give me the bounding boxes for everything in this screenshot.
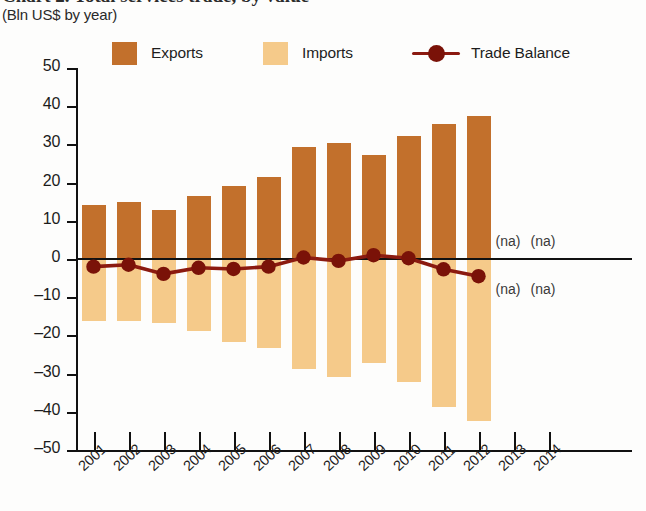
y-axis-tick-label: 10 — [12, 210, 60, 228]
bar-exports — [467, 116, 491, 259]
bar-exports — [397, 136, 421, 259]
bar-exports — [152, 210, 176, 259]
y-axis-tick-label: –20 — [12, 324, 60, 342]
zero-reference-line — [76, 258, 632, 260]
x-axis-tick-label: 2011 — [425, 442, 458, 474]
na-annotation: (na) — [531, 281, 556, 297]
y-axis-tick — [67, 106, 77, 108]
bar-imports — [117, 259, 141, 321]
y-axis-tick-label: –40 — [12, 401, 60, 419]
y-axis-tick-label: –50 — [12, 439, 60, 457]
bar-exports — [187, 196, 211, 259]
bar-exports — [432, 124, 456, 259]
bar-exports — [362, 155, 386, 259]
x-axis-tick-label: 2010 — [390, 441, 424, 474]
y-axis-tick-label: 40 — [12, 95, 60, 113]
y-axis-tick — [67, 221, 77, 223]
bar-imports — [222, 259, 246, 342]
na-annotation: (na) — [496, 233, 521, 249]
x-axis-tick-label: 2007 — [285, 441, 319, 474]
x-axis-tick-label: 2013 — [495, 441, 529, 474]
y-axis-tick — [67, 335, 77, 337]
bar-imports — [187, 259, 211, 331]
x-axis-tick-label: 2005 — [215, 441, 249, 474]
y-axis-tick-label: 0 — [12, 248, 60, 266]
y-axis-tick-label: 30 — [12, 133, 60, 151]
y-axis-tick-label: –10 — [12, 286, 60, 304]
x-axis-tick-label: 2002 — [110, 441, 144, 474]
y-axis-tick — [67, 412, 77, 414]
bar-imports — [327, 259, 351, 377]
x-axis-tick-label: 2008 — [320, 441, 354, 474]
y-axis-tick — [67, 374, 77, 376]
y-axis-tick-label: 50 — [12, 57, 60, 75]
chart-page: Chart 2. Total services trade, by value … — [0, 0, 646, 511]
y-axis-tick — [67, 297, 77, 299]
plot-area: 50403020100–10–20–30–40–5020012002200320… — [0, 0, 646, 511]
na-annotation: (na) — [531, 233, 556, 249]
y-axis-tick — [67, 183, 77, 185]
bar-imports — [397, 259, 421, 382]
bar-exports — [222, 186, 246, 259]
bar-exports — [257, 177, 281, 259]
y-axis-tick — [67, 68, 77, 70]
bar-exports — [117, 202, 141, 259]
bar-exports — [292, 147, 316, 259]
bar-imports — [467, 259, 491, 421]
y-axis-tick — [67, 144, 77, 146]
x-axis-tick-label: 2004 — [180, 441, 214, 474]
bar-imports — [432, 259, 456, 407]
y-axis-tick-label: –30 — [12, 363, 60, 381]
bar-imports — [82, 259, 106, 321]
na-annotation: (na) — [496, 281, 521, 297]
y-axis-tick-label: 20 — [12, 172, 60, 190]
x-axis-tick-label: 2001 — [75, 441, 109, 474]
bar-imports — [362, 259, 386, 363]
bar-exports — [82, 205, 106, 259]
x-axis-tick-label: 2009 — [355, 441, 389, 474]
x-axis-tick-label: 2012 — [460, 441, 494, 474]
bar-imports — [152, 259, 176, 323]
bar-exports — [327, 143, 351, 259]
x-axis-tick-label: 2003 — [145, 441, 179, 474]
bar-imports — [257, 259, 281, 348]
x-axis-tick-label: 2014 — [530, 441, 564, 474]
bar-imports — [292, 259, 316, 369]
x-axis-tick-label: 2006 — [250, 441, 284, 474]
